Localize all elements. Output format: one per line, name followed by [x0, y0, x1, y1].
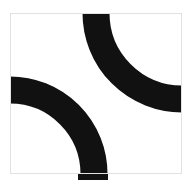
image-canvas: Quarter-arc tile pattern: [0, 0, 193, 186]
tile-pattern-graphic: [0, 0, 193, 186]
lower-left-arc-overflow: [78, 174, 108, 180]
